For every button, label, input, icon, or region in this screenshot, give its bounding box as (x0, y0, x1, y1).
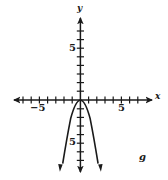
y-tick-label-negative-5: 5 (69, 137, 76, 147)
x-tick-label-negative-5: −5 (30, 103, 45, 113)
curve-label-g: g (139, 152, 146, 162)
graph-figure: y x −5 5 5 5 g (0, 0, 168, 180)
y-axis (77, 18, 84, 172)
x-axis-label: x (155, 92, 160, 101)
y-tick-label-positive-5: 5 (69, 43, 76, 53)
y-axis-label: y (77, 4, 82, 13)
x-tick-label-positive-5: 5 (118, 103, 125, 113)
